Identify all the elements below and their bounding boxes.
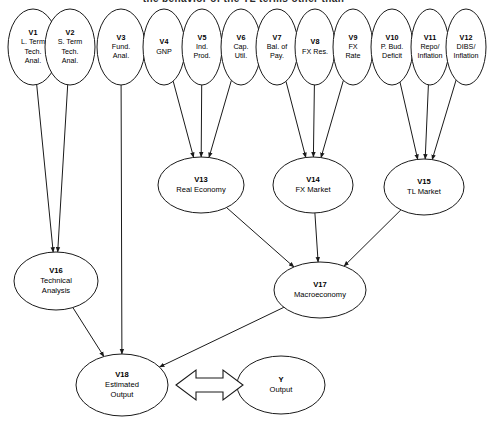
edge-v7-to-v14	[286, 81, 306, 157]
node-v1-line-1: L. Term	[21, 37, 45, 46]
edge-v8-to-v14	[313, 85, 314, 157]
node-v7-line-2: Pay.	[270, 51, 284, 60]
node-v3[interactable]: V3Fund.Anal.	[97, 9, 145, 85]
node-v14-line-0: V14	[306, 175, 320, 184]
node-v2-line-2: Tech.	[61, 47, 78, 56]
node-v7[interactable]: V7Bal. ofPay.	[256, 9, 298, 85]
node-v10-line-2: Deficit	[382, 51, 402, 60]
node-v17-line-1: Macroeconomy	[294, 290, 346, 299]
node-v16[interactable]: V16TechnicalAnalysis	[14, 252, 98, 310]
bidirectional-block-arrow	[176, 370, 243, 400]
node-v9-line-1: FX	[348, 42, 357, 51]
node-v3-line-0: V3	[117, 33, 126, 42]
node-v7-line-1: Bal. of	[267, 42, 287, 51]
block-arrow-shape	[176, 370, 243, 400]
node-v2-line-1: S. Term	[58, 37, 83, 46]
node-v13-line-0: V13	[194, 175, 208, 184]
node-v8[interactable]: V8FX Res.	[295, 9, 335, 85]
node-v15[interactable]: V15TL Market	[384, 159, 464, 215]
node-v16-line-2: Analysis	[42, 286, 70, 295]
edge-v12-to-v15	[432, 80, 456, 160]
node-v12-line-1: DIBS/	[457, 42, 476, 51]
node-v7-line-0: V7	[273, 33, 282, 42]
node-v11-line-0: V11	[424, 33, 436, 42]
node-v6[interactable]: V6Cap.Util.	[221, 9, 261, 85]
edge-layer	[37, 80, 456, 367]
node-v10-line-0: V10	[386, 33, 399, 42]
edge-v4-to-v13	[173, 81, 193, 157]
node-v12-line-0: V12	[460, 33, 473, 42]
node-v9[interactable]: V9FXRate	[333, 9, 373, 85]
node-v12[interactable]: V12DIBS/Inflation	[446, 9, 486, 85]
node-v18[interactable]: V18EstimatedOutput	[76, 354, 168, 416]
edge-v11-to-v15	[425, 85, 428, 159]
node-v3-line-1: Fund.	[112, 42, 130, 51]
node-v1-line-3: Anal.	[25, 56, 41, 65]
edge-v13-to-v17	[227, 208, 294, 268]
node-y[interactable]: YOutput	[237, 356, 325, 414]
node-y-line-0: Y	[278, 375, 283, 384]
edge-v16-to-v18	[73, 308, 104, 357]
model-structure-diagram: V1L. TermTech.Anal.V2S. TermTech.Anal.V3…	[0, 0, 487, 423]
node-v17[interactable]: V17Macroeconomy	[274, 262, 366, 318]
node-v5-line-1: Ind.	[196, 42, 208, 51]
edge-v1-to-v16	[37, 85, 54, 253]
edge-v5-to-v13	[201, 85, 202, 157]
node-v16-line-0: V16	[49, 266, 63, 275]
node-v2-line-3: Anal.	[62, 56, 78, 65]
node-v12-line-2: Inflation	[453, 51, 478, 60]
node-v14-line-1: FX Market	[295, 185, 331, 194]
edge-v2-to-v16	[58, 85, 68, 252]
node-v18-line-1: Estimated	[105, 380, 139, 389]
node-v8-line-1: FX Res.	[302, 47, 328, 56]
node-v13-line-1: Real Economy	[176, 185, 226, 194]
node-v6-line-1: Cap.	[233, 42, 248, 51]
edge-v10-to-v15	[400, 82, 418, 159]
node-v3-line-2: Anal.	[113, 51, 129, 60]
node-y-line-1: Output	[270, 385, 294, 394]
node-v16-line-1: Technical	[40, 276, 72, 285]
node-v17-line-0: V17	[313, 280, 327, 289]
node-v15-line-0: V15	[417, 177, 431, 186]
node-v1-line-2: Tech.	[24, 47, 41, 56]
node-v11[interactable]: V11Repo/Inflation	[411, 9, 449, 85]
node-v10[interactable]: V10P. Bud.Deficit	[371, 9, 413, 85]
node-v9-line-0: V9	[349, 33, 358, 42]
node-v5-line-2: Prod.	[193, 51, 210, 60]
edge-v14-to-v17	[315, 213, 318, 262]
edge-v15-to-v17	[344, 210, 401, 266]
node-v9-line-2: Rate	[345, 51, 360, 60]
edge-v6-to-v13	[209, 80, 231, 157]
node-v5[interactable]: V5Ind.Prod.	[182, 9, 222, 85]
node-v6-line-0: V6	[237, 33, 246, 42]
node-v18-line-2: Output	[111, 390, 135, 399]
node-v6-line-2: Util.	[235, 51, 247, 60]
node-v2[interactable]: V2S. TermTech.Anal.	[45, 9, 95, 85]
node-v10-line-1: P. Bud.	[381, 42, 404, 51]
node-layer: V1L. TermTech.Anal.V2S. TermTech.Anal.V3…	[8, 9, 486, 416]
node-v11-line-1: Repo/	[420, 42, 439, 51]
node-v18-line-0: V18	[115, 370, 129, 379]
node-v1-line-0: V1	[29, 28, 38, 37]
node-v15-line-1: TL Market	[407, 187, 442, 196]
node-v4-line-0: V4	[160, 37, 169, 46]
node-v4[interactable]: V4GNP	[143, 9, 185, 85]
node-v4-line-1: GNP	[156, 47, 172, 56]
node-v13[interactable]: V13Real Economy	[158, 157, 244, 213]
node-v8-line-0: V8	[311, 37, 320, 46]
edge-v9-to-v14	[321, 80, 343, 157]
diagram-canvas: the behavior of the TL terms other than …	[0, 0, 487, 423]
node-v14[interactable]: V14FX Market	[273, 157, 353, 213]
edge-v3-to-v18	[121, 85, 122, 354]
node-v5-line-0: V5	[198, 33, 207, 42]
node-v11-line-2: Inflation	[417, 51, 442, 60]
node-v2-line-0: V2	[66, 28, 75, 37]
